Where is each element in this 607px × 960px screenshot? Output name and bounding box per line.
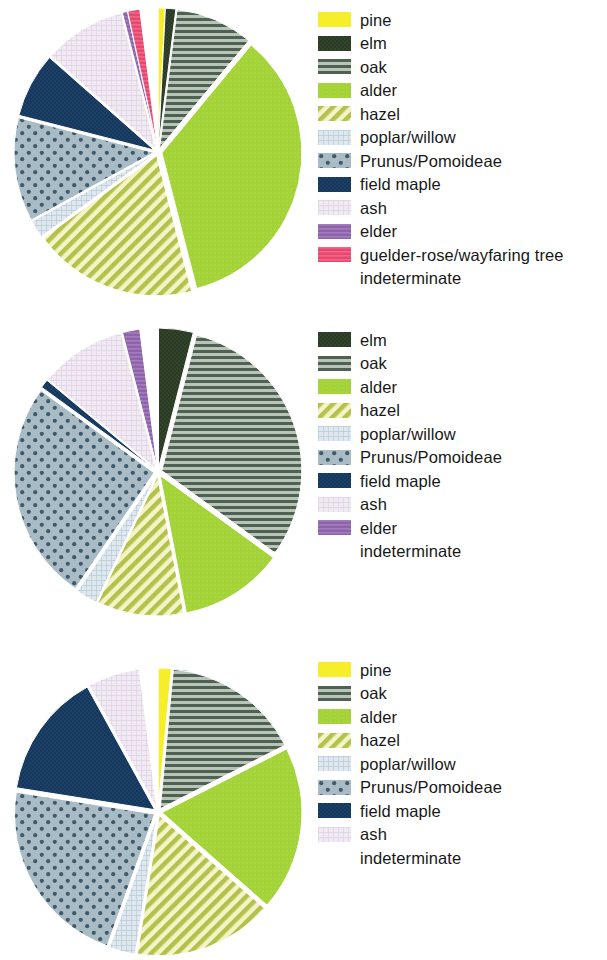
legend-item-guelder-rose-wayfaring-tree[interactable]: guelder-rose/wayfaring tree [318,243,604,267]
chart-panel-3: pine oak alder hazel poplar/willow Prunu… [0,650,607,960]
legend-item-oak[interactable]: oak [318,352,604,376]
legend-swatch-pine [318,662,351,677]
legend-swatch-none [318,544,351,559]
legend-swatch-ash [318,497,351,512]
legend-label: oak [360,685,387,702]
pie-chart-1-container [6,0,306,310]
chart-panel-1: pine elm oak alder hazel poplar/willow P… [0,0,607,318]
legend-item-alder[interactable]: alder [318,79,604,103]
legend-item-ash[interactable]: ash [318,196,604,220]
legend-label: alder [360,379,397,396]
legend-1: pine elm oak alder hazel poplar/willow P… [318,8,604,290]
legend-item-elder[interactable]: elder [318,220,604,244]
legend-label: elder [360,223,397,240]
legend-swatch-maple [318,473,351,488]
legend-item-pine[interactable]: pine [318,658,604,682]
legend-item-poplar-willow[interactable]: poplar/willow [318,126,604,150]
legend-swatch-oak [318,356,351,371]
legend-item-pine[interactable]: pine [318,8,604,32]
legend-label: hazel [360,732,400,749]
legend-label: Prunus/Pomoideae [360,779,502,796]
legend-item-poplar-willow[interactable]: poplar/willow [318,752,604,776]
legend-swatch-poplar [318,756,351,771]
legend-item-oak[interactable]: oak [318,682,604,706]
legend-label: ash [360,496,387,513]
legend-item-prunus-pomoideae[interactable]: Prunus/Pomoideae [318,149,604,173]
legend-label: oak [360,59,387,76]
legend-label: Prunus/Pomoideae [360,449,502,466]
chart-panel-2: elm oak alder hazel poplar/willow Prunus… [0,320,607,638]
legend-swatch-alder [318,709,351,724]
legend-swatch-maple [318,177,351,192]
legend-label: ash [360,826,387,843]
legend-item-oak[interactable]: oak [318,55,604,79]
legend-swatch-poplar [318,426,351,441]
legend-swatch-none [318,850,351,865]
legend-swatch-poplar [318,130,351,145]
legend-item-elm[interactable]: elm [318,328,604,352]
legend-swatch-hazel [318,106,351,121]
legend-swatch-hazel [318,403,351,418]
legend-label: field maple [360,803,441,820]
legend-swatch-oak [318,686,351,701]
legend-item-hazel[interactable]: hazel [318,399,604,423]
pie-chart-2-container [6,320,306,630]
legend-swatch-prunus [318,780,351,795]
legend-swatch-hazel [318,733,351,748]
legend-label: poplar/willow [360,426,456,443]
legend-item-prunus-pomoideae[interactable]: Prunus/Pomoideae [318,446,604,470]
legend-item-field-maple[interactable]: field maple [318,173,604,197]
pie-chart-3 [6,650,306,960]
legend-2: elm oak alder hazel poplar/willow Prunus… [318,328,604,563]
legend-swatch-elder [318,520,351,535]
legend-swatch-elm [318,36,351,51]
legend-label: Prunus/Pomoideae [360,153,502,170]
legend-3: pine oak alder hazel poplar/willow Prunu… [318,658,604,870]
legend-label: poplar/willow [360,129,456,146]
legend-swatch-prunus [318,153,351,168]
legend-label: elm [360,35,387,52]
legend-item-ash[interactable]: ash [318,823,604,847]
legend-item-ash[interactable]: ash [318,493,604,517]
legend-swatch-elm [318,332,351,347]
legend-label: elder [360,520,397,537]
legend-label: poplar/willow [360,756,456,773]
legend-item-field-maple[interactable]: field maple [318,799,604,823]
legend-item-field-maple[interactable]: field maple [318,469,604,493]
legend-swatch-alder [318,83,351,98]
legend-label: indeterminate [360,270,461,287]
legend-label: indeterminate [360,543,461,560]
legend-item-poplar-willow[interactable]: poplar/willow [318,422,604,446]
legend-item-indeterminate[interactable]: indeterminate [318,267,604,291]
legend-item-elm[interactable]: elm [318,32,604,56]
legend-item-indeterminate[interactable]: indeterminate [318,846,604,870]
pie-chart-3-container [6,650,306,960]
legend-swatch-oak [318,59,351,74]
legend-label: elm [360,332,387,349]
legend-label: field maple [360,473,441,490]
legend-swatch-maple [318,803,351,818]
legend-swatch-none [318,271,351,286]
legend-item-alder[interactable]: alder [318,375,604,399]
pie-chart-1 [6,0,306,310]
legend-swatch-elder [318,224,351,239]
legend-label: oak [360,355,387,372]
legend-item-elder[interactable]: elder [318,516,604,540]
legend-label: ash [360,200,387,217]
legend-swatch-guelder [318,247,351,262]
legend-label: field maple [360,176,441,193]
legend-swatch-prunus [318,450,351,465]
legend-item-hazel[interactable]: hazel [318,102,604,126]
legend-label: hazel [360,402,400,419]
legend-label: alder [360,709,397,726]
pie-chart-2 [6,320,306,630]
legend-item-alder[interactable]: alder [318,705,604,729]
legend-label: alder [360,82,397,99]
legend-swatch-alder [318,379,351,394]
legend-item-hazel[interactable]: hazel [318,729,604,753]
legend-swatch-ash [318,827,351,842]
legend-item-prunus-pomoideae[interactable]: Prunus/Pomoideae [318,776,604,800]
legend-item-indeterminate[interactable]: indeterminate [318,540,604,564]
legend-swatch-pine [318,12,351,27]
